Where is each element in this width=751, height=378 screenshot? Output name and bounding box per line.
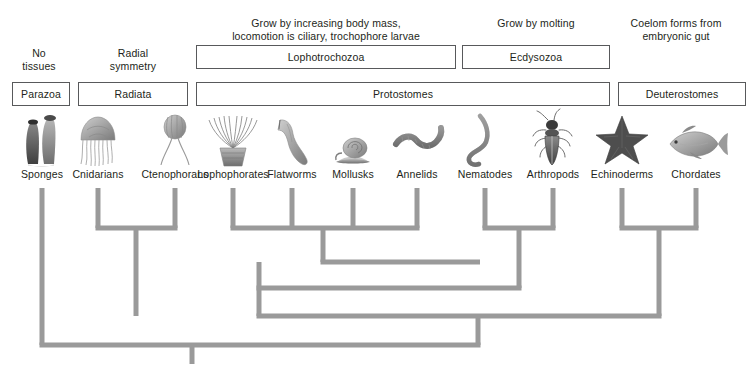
annotation-line-1: Radial [78,47,188,60]
box-protostomes[interactable]: Protostomes [196,82,610,106]
taxon-label-chordates[interactable]: Chordates [671,168,720,180]
box-label: Protostomes [373,88,433,100]
annotation-ecdysozoa-traits: Grow by molting [462,17,610,30]
taxon-label-cnidarians[interactable]: Cnidarians [72,168,123,180]
box-lophotrochozoa[interactable]: Lophotrochozoa [196,45,456,69]
box-label: Ecdysozoa [510,51,562,63]
taxon-label-flatworms[interactable]: Flatworms [267,168,316,180]
box-label: Deuterostomes [646,88,719,100]
box-ecdysozoa[interactable]: Ecdysozoa [462,45,610,69]
box-label: Radiata [115,88,152,100]
taxon-label-nematodes[interactable]: Nematodes [458,168,513,180]
box-radiata[interactable]: Radiata [78,82,188,106]
box-label: Parazoa [21,88,61,100]
box-label: Lophotrochozoa [288,51,365,63]
annotation-deuterostome-traits: Coelom forms from embryonic gut [606,17,746,42]
annotation-no-tissues: No tissues [8,47,70,72]
phylogeny-diagram: No tissues Radial symmetry Grow by incre… [0,0,751,378]
box-deuterostomes[interactable]: Deuterostomes [618,82,746,106]
annotation-lophotrochozoa-traits: Grow by increasing body mass, locomotion… [196,17,456,42]
annotation-line-2: tissues [8,60,70,73]
taxon-label-arthropods[interactable]: Arthropods [527,168,579,180]
taxon-label-echinoderms[interactable]: Echinoderms [591,168,653,180]
taxon-label-mollusks[interactable]: Mollusks [332,168,374,180]
annotation-line-2: locomotion is ciliary, trochophore larva… [196,30,456,43]
annotation-line-1: No [8,47,70,60]
annotation-radial-symmetry: Radial symmetry [78,47,188,72]
annotation-line-1: Grow by molting [462,17,610,30]
taxon-label-lophophorates[interactable]: Lophophorates [197,168,268,180]
taxon-label-annelids[interactable]: Annelids [396,168,437,180]
annotation-line-2: symmetry [78,60,188,73]
annotation-line-2: embryonic gut [606,30,746,43]
annotation-line-1: Coelom forms from [606,17,746,30]
box-parazoa[interactable]: Parazoa [12,82,70,106]
taxon-label-sponges[interactable]: Sponges [21,168,63,180]
annotation-line-1: Grow by increasing body mass, [196,17,456,30]
